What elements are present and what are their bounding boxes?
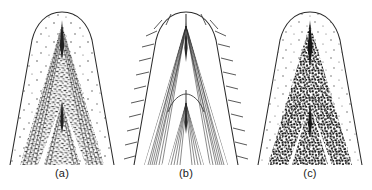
panel-a-drawing [0, 0, 124, 165]
panel-c-drawing [248, 0, 372, 165]
panel-b-drawing [124, 0, 248, 165]
panel-label-c: (c) [248, 166, 372, 180]
panel-label-b: (b) [124, 166, 248, 180]
panel-c: (c) [248, 0, 372, 190]
panel-label-a: (a) [0, 166, 124, 180]
panel-a: (a) [0, 0, 124, 190]
outer-apex-spike-b [184, 22, 187, 62]
figure-root: (a) [0, 0, 372, 190]
panel-b: (b) [124, 0, 248, 190]
inner-apex-spike-b [185, 100, 188, 134]
